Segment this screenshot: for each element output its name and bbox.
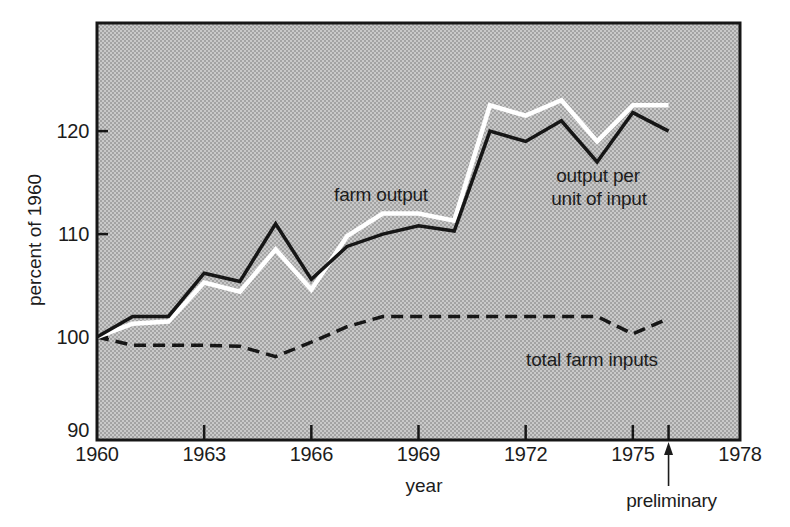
y-axis-title: percent of 1960 (24, 174, 45, 306)
x-tick-label: 1969 (397, 443, 440, 465)
x-axis-title: year (406, 475, 444, 496)
plot-area (97, 23, 740, 440)
output-per-unit-series-label-line2: unit of input (551, 188, 648, 209)
farm-output-series-label: farm output (334, 184, 429, 205)
x-tick-label: 1960 (75, 443, 118, 465)
y-tick-label: 100 (57, 326, 90, 348)
x-tick-label: 1972 (504, 443, 547, 465)
x-tick-label: 1978 (718, 443, 761, 465)
output-per-unit-series-label-line1: output per (556, 165, 640, 186)
preliminary-label: preliminary (626, 490, 717, 511)
x-tick-label: 1966 (290, 443, 333, 465)
x-tick-label: 1963 (183, 443, 226, 465)
total-farm-inputs-series-label: total farm inputs (526, 349, 658, 370)
y-tick-label: 120 (57, 120, 90, 142)
y-tick-label: 90 (67, 419, 89, 441)
figure: 196019631966196919721975197890100110120 … (0, 0, 790, 527)
chart-canvas: 196019631966196919721975197890100110120 … (0, 0, 790, 527)
y-tick-label: 110 (58, 223, 89, 245)
x-tick-label: 1975 (611, 443, 654, 465)
